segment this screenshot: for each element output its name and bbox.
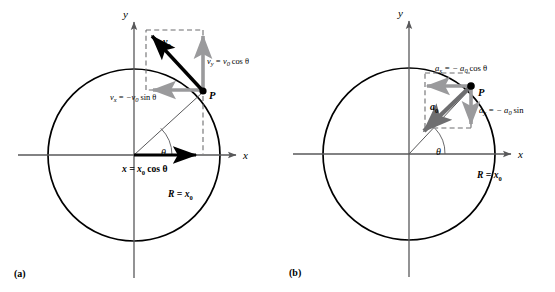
figure-root: y x P θ v0 vy= v0cos θ vx= −v0sin θ x = … xyxy=(0,0,555,292)
x-axis-label-a: x xyxy=(242,149,248,161)
ax-expr-tail-b: cos θ xyxy=(469,63,487,73)
ay-expr-tail-b: sin xyxy=(513,105,524,115)
ay-subscript-b: y xyxy=(482,109,486,116)
point-p-dot-b xyxy=(467,82,475,90)
vy-expr-tail-a: cos θ xyxy=(232,57,249,66)
a0-subscript-b: 0 xyxy=(435,107,438,114)
x-projection-label-a: x = x0cos θ xyxy=(121,163,168,176)
vector-ay-label-b: ay= − a0sin xyxy=(479,105,524,116)
angle-label-a: θ xyxy=(161,147,166,158)
vector-vx-label-a: vx= −v0sin θ xyxy=(110,93,156,103)
radius-subscript-a: 0 xyxy=(189,194,192,201)
vx-expr-subscript-a: 0 xyxy=(135,96,139,103)
y-axis-label-b: y xyxy=(397,7,403,19)
vy-equals-a: = v xyxy=(215,57,227,66)
ax-equals-b: = − a xyxy=(444,63,464,73)
panel-b: y x P θ a0 ax= − a0cos θ ay= − a0sin R =… xyxy=(277,0,555,292)
point-p-label-a: P xyxy=(209,90,216,101)
radius-subscript-b: 0 xyxy=(498,175,501,182)
xproj-subscript-a: 0 xyxy=(142,169,145,176)
vector-a0-label-b: a0 xyxy=(430,101,438,114)
ay-expr-subscript-b: 0 xyxy=(508,109,512,116)
vector-v0-a xyxy=(152,36,203,91)
radius-label-a: R = x0 xyxy=(167,188,193,201)
panel-caption-a: (a) xyxy=(14,268,26,280)
xproj-tail-a: cos θ xyxy=(147,163,167,174)
vx-expr-tail-a: sin θ xyxy=(140,93,156,102)
panel-a: y x P θ v0 vy= v0cos θ vx= −v0sin θ x = … xyxy=(0,0,278,292)
vy-subscript-a: y xyxy=(210,60,214,67)
angle-label-b: θ xyxy=(436,146,441,157)
radius-label-b: R = x0 xyxy=(476,169,502,182)
vx-equals-a: = −v xyxy=(118,93,135,102)
point-p-label-b: P xyxy=(478,87,485,98)
y-axis-label-a: y xyxy=(122,8,128,20)
ax-subscript-b: x xyxy=(438,67,442,74)
radius-symbol-b: R = x xyxy=(476,169,499,180)
vx-subscript-a: x xyxy=(113,96,117,103)
xproj-symbol-a: x = x xyxy=(121,163,142,174)
panel-caption-b: (b) xyxy=(289,267,301,279)
x-axis-label-b: x xyxy=(517,148,523,160)
ay-equals-b: = − a xyxy=(488,105,508,115)
v0-subscript-a: 0 xyxy=(167,42,170,49)
point-p-dot-a xyxy=(199,87,206,94)
radius-symbol-a: R = x xyxy=(167,188,190,199)
vector-vy-label-a: vy= v0cos θ xyxy=(207,57,249,67)
vector-v0-label-a: v0 xyxy=(163,36,171,49)
vy-expr-subscript-a: 0 xyxy=(227,60,231,67)
